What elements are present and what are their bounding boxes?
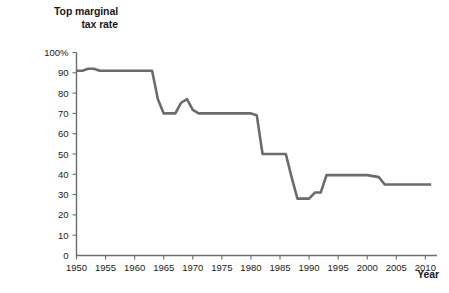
x-axis-tick-label: 1975 bbox=[211, 262, 232, 273]
y-axis-tick-label: 30 bbox=[58, 189, 69, 200]
chart-axes bbox=[77, 53, 438, 256]
x-axis-tick-label: 1990 bbox=[299, 262, 320, 273]
x-axis-tick-label: 1955 bbox=[95, 262, 116, 273]
x-axis-tick-label: 2010 bbox=[415, 262, 436, 273]
y-axis-tick-label: 10 bbox=[58, 230, 69, 241]
chart-container: Top marginal tax rate Year 0102030405060… bbox=[0, 0, 449, 293]
y-axis-tick-label: 50 bbox=[58, 149, 69, 160]
x-axis-tick-label: 1980 bbox=[240, 262, 261, 273]
x-axis-tick-label: 1965 bbox=[153, 262, 174, 273]
y-axis-tick-label: 60 bbox=[58, 128, 69, 139]
chart-plot-area: 0102030405060708090100% 1950195519601965… bbox=[0, 0, 449, 293]
y-axis-tick-label: 0 bbox=[63, 250, 68, 261]
x-axis-tick-label: 1985 bbox=[269, 262, 290, 273]
y-axis-tick-label: 90 bbox=[58, 67, 69, 78]
x-axis-tick-label: 1950 bbox=[66, 262, 87, 273]
x-axis-tick-label: 1960 bbox=[124, 262, 145, 273]
data-series-line bbox=[77, 69, 432, 199]
x-axis-tick-label: 2000 bbox=[357, 262, 378, 273]
y-axis-tick-label: 20 bbox=[58, 209, 69, 220]
x-axis-tick-label: 1995 bbox=[328, 262, 349, 273]
y-axis-tick-label: 40 bbox=[58, 169, 69, 180]
y-axis-tick-label: 100% bbox=[44, 47, 69, 58]
y-axis-tick-label: 70 bbox=[58, 108, 69, 119]
y-axis-tick-label: 80 bbox=[58, 88, 69, 99]
x-axis-tick-label: 2005 bbox=[386, 262, 407, 273]
y-axis-tick-group: 0102030405060708090100% bbox=[44, 47, 76, 261]
x-axis-tick-label: 1970 bbox=[182, 262, 203, 273]
x-axis-tick-group: 1950195519601965197019751980198519901995… bbox=[66, 256, 436, 273]
